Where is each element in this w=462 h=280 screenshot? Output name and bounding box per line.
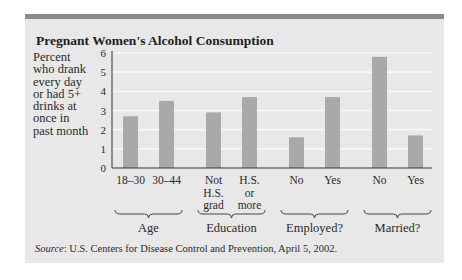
x-tick-label: Yes — [407, 174, 424, 186]
bar — [408, 135, 423, 168]
group-label: Education — [206, 221, 257, 235]
group-brace — [198, 210, 265, 218]
bar — [206, 112, 221, 168]
bar — [159, 101, 174, 168]
x-tick-label: Not — [205, 174, 223, 186]
x-tick-label: or — [245, 187, 255, 199]
x-tick-label: H.S. — [239, 174, 260, 186]
bar — [372, 57, 387, 168]
x-tick-label: No — [372, 174, 386, 186]
y-tick-label: 4 — [101, 85, 107, 97]
y-tick-label: 3 — [101, 105, 107, 117]
y-tick-label: 1 — [101, 143, 107, 155]
bar — [289, 137, 304, 168]
group-label: Employed? — [286, 221, 343, 235]
y-tick-label: 5 — [101, 66, 107, 78]
group-brace — [115, 210, 182, 218]
group-label: Married? — [375, 221, 421, 235]
y-tick-label: 6 — [101, 47, 107, 59]
x-tick-label: 30–44 — [152, 174, 181, 186]
y-tick-label: 2 — [101, 124, 107, 136]
group-label: Age — [138, 221, 159, 235]
x-tick-label: grad — [203, 199, 224, 212]
x-tick-label: more — [238, 199, 262, 211]
x-tick-label: H.S. — [203, 187, 224, 199]
bar — [242, 97, 257, 168]
bar — [325, 97, 340, 168]
group-brace — [364, 210, 431, 218]
x-tick-label: Yes — [324, 174, 341, 186]
x-tick-label: No — [289, 174, 303, 186]
bar-chart: 012345618–3030–44AgeNotH.S.gradH.S.ormor… — [0, 0, 462, 280]
bar — [123, 116, 138, 168]
group-brace — [281, 210, 348, 218]
y-tick-label: 0 — [101, 162, 107, 174]
x-tick-label: 18–30 — [116, 174, 145, 186]
